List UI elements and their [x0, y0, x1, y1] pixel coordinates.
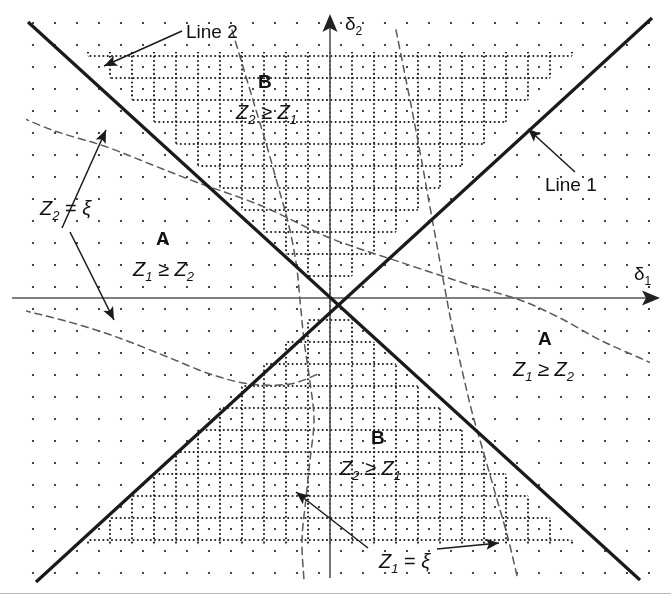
- relation-op: ≥: [152, 258, 174, 280]
- relation-op: ≥: [255, 101, 277, 123]
- y-axis-label-symbol: δ: [345, 13, 356, 34]
- relation-lhs: Z: [133, 258, 145, 280]
- region-bottom-b-relation: Z2 ≥ Z1: [340, 458, 401, 482]
- relation-op: ≥: [532, 358, 554, 380]
- relation-lhs: Z: [236, 101, 248, 123]
- line-1-label: Line 1: [545, 175, 597, 194]
- relation-rhs: Z: [175, 258, 187, 280]
- line-2-label: Line 2: [186, 22, 238, 41]
- y-axis-label: δ2: [345, 14, 362, 37]
- curve-op: =: [398, 550, 421, 572]
- curve-lhs: Z: [379, 550, 391, 572]
- relation-lhs: Z: [513, 358, 525, 380]
- x-axis-label: δ1: [634, 264, 651, 287]
- relation-lhs: Z: [340, 457, 352, 479]
- curve-op: =: [59, 197, 82, 219]
- curve-z2-xi-label: Z2 = ξ: [40, 198, 91, 222]
- bottom-divider: [0, 593, 671, 594]
- relation-rhs: Z: [555, 358, 567, 380]
- curve-rhs: ξ: [421, 550, 430, 572]
- x-axis-label-symbol: δ: [634, 263, 645, 284]
- relation-rhs-sub: 2: [567, 369, 574, 384]
- relation-rhs-sub: 1: [290, 112, 297, 127]
- region-bottom-b-label: B: [371, 428, 385, 447]
- curve-z1-xi-label: Z1 = ξ: [379, 551, 430, 575]
- relation-rhs: Z: [382, 457, 394, 479]
- relation-rhs-sub: 2: [187, 269, 194, 284]
- relation-rhs-sub: 1: [394, 468, 401, 483]
- figure-canvas: [0, 0, 671, 601]
- region-top-b-label: B: [258, 72, 272, 91]
- relation-op: ≥: [359, 457, 381, 479]
- y-axis-label-subscript: 2: [356, 24, 363, 38]
- region-right-a-label: A: [538, 329, 552, 348]
- relation-rhs: Z: [278, 101, 290, 123]
- region-left-a-relation: Z1 ≥ Z2: [133, 259, 194, 283]
- region-right-a-relation: Z1 ≥ Z2: [513, 359, 574, 383]
- curve-rhs: ξ: [82, 197, 91, 219]
- curve-lhs: Z: [40, 197, 52, 219]
- figure-container: δ2 δ1 Line 2 Line 1 A Z1 ≥ Z2 A Z1 ≥ Z2 …: [0, 0, 671, 601]
- x-axis-label-subscript: 1: [645, 274, 652, 288]
- region-top-b-relation: Z2 ≥ Z1: [236, 102, 297, 126]
- region-left-a-label: A: [156, 229, 170, 248]
